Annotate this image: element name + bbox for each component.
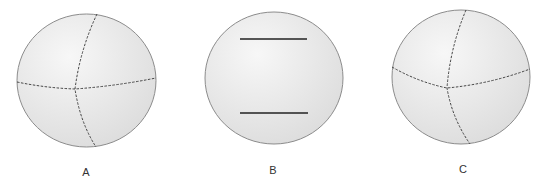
- spheres-diagram: [0, 0, 543, 179]
- label-b: B: [269, 164, 276, 176]
- sphere-a-body: [17, 14, 156, 147]
- figure-stage: A B C: [0, 0, 543, 179]
- label-a: A: [82, 166, 89, 178]
- sphere-c: [392, 10, 530, 144]
- label-c: C: [459, 163, 467, 175]
- sphere-c-body: [392, 10, 530, 144]
- sphere-a: [17, 14, 156, 147]
- sphere-b-body: [205, 12, 343, 144]
- sphere-b: [205, 12, 343, 144]
